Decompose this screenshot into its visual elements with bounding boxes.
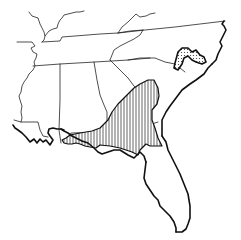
map-container: [0, 0, 241, 240]
atlantic-coast-nc: [212, 21, 226, 64]
mississippi-river: [17, 42, 37, 122]
florida-east-coast: [162, 136, 190, 232]
tn-nc-border: [110, 30, 143, 60]
atlantic-coast-ga-sc: [162, 64, 212, 136]
la-ms-border: [14, 120, 48, 137]
ms-al-border: [59, 64, 61, 143]
gulf-coast-louisiana: [13, 125, 64, 145]
kentucky-north-border: [29, 11, 84, 36]
range-area-hatched: [62, 80, 162, 155]
florida-west-coast: [144, 162, 176, 232]
kentucky-west-border: [42, 36, 45, 42]
range-area-stippled: [174, 48, 206, 70]
wv-va-border: [118, 13, 155, 33]
southeast-us-map: [0, 0, 241, 240]
